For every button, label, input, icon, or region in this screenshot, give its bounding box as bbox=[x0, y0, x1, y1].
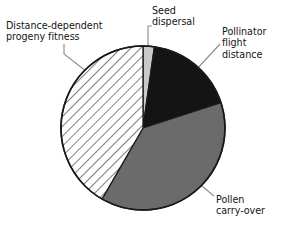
slice-label-pollen-carry-over: Pollen carry-over bbox=[216, 194, 265, 217]
slice-label-distance-dependent-progeny-fitness: Distance-dependent progeny fitness bbox=[6, 20, 102, 43]
slice-label-pollinator-flight-distance: Pollinator flight distance bbox=[222, 26, 266, 60]
pie-chart-figure: Distance-dependent progeny fitness Seed … bbox=[0, 0, 286, 236]
slice-label-seed-dispersal: Seed dispersal bbox=[152, 5, 195, 28]
leader-line-pollinator-flight bbox=[196, 44, 220, 70]
